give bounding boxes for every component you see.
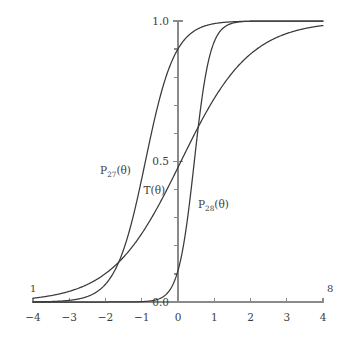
x-tick-label: −2 xyxy=(98,311,113,323)
x-tick-label: −1 xyxy=(134,311,149,323)
x-tick-label: 2 xyxy=(247,311,254,323)
item-characteristic-curves-plot: −4−3−2−101234 0.00.51.0 1 8 P27(θ)T(θ)P2… xyxy=(0,0,354,339)
curve-label-subscript: 27 xyxy=(107,170,117,179)
x-tick-label: −4 xyxy=(25,311,41,323)
curve-label-tail: (θ) xyxy=(214,198,229,210)
curve-label-tail: (θ) xyxy=(116,164,131,176)
y-tick-label: 0.5 xyxy=(152,155,169,167)
y-axis-tick-labels: 0.00.51.0 xyxy=(152,15,169,308)
curve-label: P28(θ) xyxy=(198,198,229,213)
curve-label-main: P xyxy=(198,198,205,210)
x-tick-label: −3 xyxy=(62,311,77,323)
x-tick-label: 0 xyxy=(175,311,182,323)
y-tick-label: 0.0 xyxy=(152,296,169,308)
curve-label: T(θ) xyxy=(144,184,166,196)
chart-container: −4−3−2−101234 0.00.51.0 1 8 P27(θ)T(θ)P2… xyxy=(0,0,354,339)
curve-label-main: P xyxy=(100,164,107,176)
x-tick-label: 1 xyxy=(211,311,218,323)
x-tick-label: 4 xyxy=(320,311,327,323)
x-tick-label: 3 xyxy=(283,311,290,323)
curve-annotation-labels: P27(θ)T(θ)P28(θ) xyxy=(100,164,229,213)
x-axis-end-label: 8 xyxy=(327,283,333,294)
curve-label-subscript: 28 xyxy=(205,204,215,213)
x-axis-tick-labels: −4−3−2−101234 xyxy=(25,311,326,323)
curve-label-tail: (θ) xyxy=(151,184,166,196)
curve-label: P27(θ) xyxy=(100,164,131,179)
x-axis-start-label: 1 xyxy=(30,283,36,294)
curve-label-main: T xyxy=(144,184,151,196)
y-tick-label: 1.0 xyxy=(152,15,169,27)
